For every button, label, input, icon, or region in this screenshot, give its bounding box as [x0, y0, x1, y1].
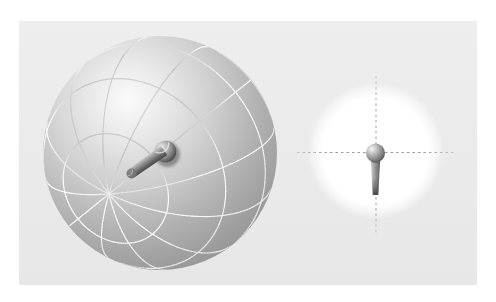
front-pin-ball — [366, 144, 385, 163]
figure-canvas — [0, 0, 496, 302]
scene-svg — [0, 0, 496, 302]
